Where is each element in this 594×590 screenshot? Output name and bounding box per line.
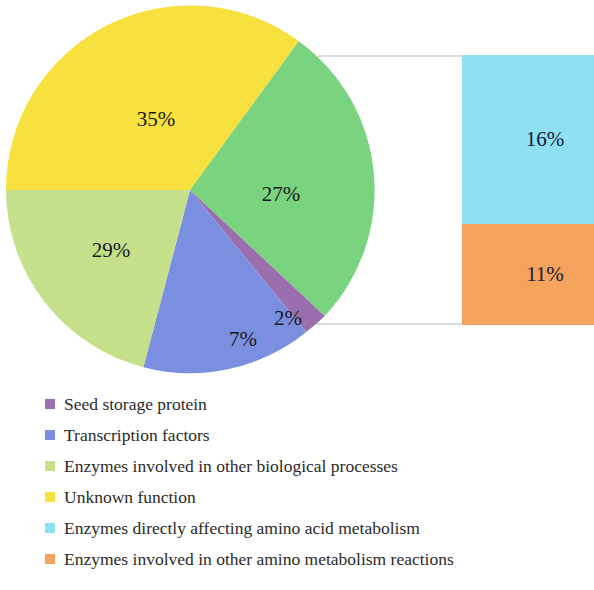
legend-item-label: Enzymes directly affecting amino acid me… xyxy=(64,518,420,538)
pie-label-other-biological-processes: 29% xyxy=(92,238,131,262)
legend-item-transcription-factors[interactable]: Transcription factors xyxy=(0,419,594,450)
chart-canvas: 35% 27% 29% 7% 2% 16% 11% xyxy=(0,0,594,385)
legend-item-label: Seed storage protein xyxy=(64,394,207,414)
legend-item-direct-amino-metabolism[interactable]: Enzymes directly affecting amino acid me… xyxy=(0,512,594,543)
pie-label-unknown-function: 35% xyxy=(137,107,176,131)
legend-swatch-icon xyxy=(45,492,55,502)
pie-label-amino-group: 27% xyxy=(262,182,301,206)
legend-item-other-amino-metabolism[interactable]: Enzymes involved in other amino metaboli… xyxy=(0,543,594,574)
legend-item-label: Transcription factors xyxy=(64,425,210,445)
legend-item-label: Unknown function xyxy=(64,487,196,507)
legend-item-label: Enzymes involved in other amino metaboli… xyxy=(64,549,454,569)
legend-swatch-icon xyxy=(45,554,55,564)
legend-item-unknown-function[interactable]: Unknown function xyxy=(0,481,594,512)
pie-label-seed-storage-protein: 2% xyxy=(274,306,302,330)
legend-item-label: Enzymes involved in other biological pro… xyxy=(64,456,398,476)
legend-item-other-biological-processes[interactable]: Enzymes involved in other biological pro… xyxy=(0,450,594,481)
legend-swatch-icon xyxy=(45,430,55,440)
legend-swatch-icon xyxy=(45,523,55,533)
legend-swatch-icon xyxy=(45,461,55,471)
bar-label-direct-amino-metabolism: 16% xyxy=(526,127,565,151)
legend-swatch-icon xyxy=(45,399,55,409)
pie-label-transcription-factors: 7% xyxy=(229,327,257,351)
bar-label-other-amino-metabolism: 11% xyxy=(526,262,564,286)
legend-item-seed-storage-protein[interactable]: Seed storage protein xyxy=(0,388,594,419)
bar-of-pie-chart: 35% 27% 29% 7% 2% 16% 11% xyxy=(0,0,594,385)
chart-legend: Seed storage protein Transcription facto… xyxy=(0,388,594,574)
